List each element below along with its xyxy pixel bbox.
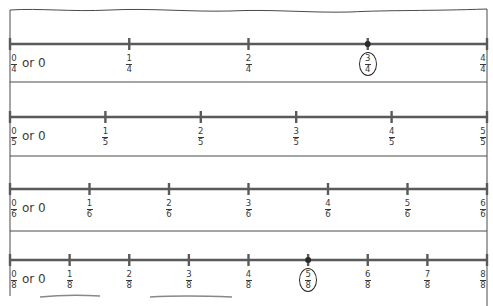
tick-label-0-4: 04: [11, 54, 17, 74]
denominator: 4: [11, 65, 16, 74]
tick-label-5-5: 55: [480, 127, 486, 147]
denominator: 5: [11, 138, 16, 147]
denominator: 8: [11, 281, 16, 290]
zero-equivalent-label: or 0: [22, 201, 46, 215]
zero-equivalent-label: or 0: [22, 129, 46, 143]
numerator: 0: [11, 127, 16, 136]
zero-equivalent-label: or 0: [22, 56, 46, 70]
denominator: 6: [246, 210, 251, 219]
numerator: 0: [11, 199, 16, 208]
tick-label-5-6: 56: [405, 199, 411, 219]
numerator: 2: [127, 270, 132, 279]
denominator: 8: [67, 281, 72, 290]
bottom-smudge-right: [150, 296, 232, 297]
denominator: 6: [166, 210, 171, 219]
bottom-smudge-left: [40, 295, 100, 297]
torn-top-edge: [10, 9, 487, 12]
numerator: 3: [293, 127, 298, 136]
denominator: 6: [405, 210, 410, 219]
number-lines-artwork: [0, 0, 493, 306]
tick-label-1-8: 18: [67, 270, 73, 290]
numerator: 0: [11, 54, 16, 63]
denominator: 6: [87, 210, 92, 219]
tick-label-7-8: 78: [424, 270, 430, 290]
tick-label-4-5: 45: [389, 127, 395, 147]
numerator: 4: [325, 199, 330, 208]
denominator: 8: [186, 281, 191, 290]
denominator: 8: [480, 281, 485, 290]
tick-label-4-8: 48: [246, 270, 252, 290]
fraction-number-lines-worksheet: 04or 01424344405or 0152535455506or 01626…: [0, 0, 493, 306]
numerator: 4: [389, 127, 394, 136]
denominator: 6: [480, 210, 485, 219]
tick-label-2-5: 25: [198, 127, 204, 147]
denominator: 8: [365, 281, 370, 290]
denominator: 5: [103, 138, 108, 147]
numerator: 0: [11, 270, 16, 279]
numerator: 5: [405, 199, 410, 208]
numerator: 3: [186, 270, 191, 279]
tick-label-1-5: 15: [102, 127, 108, 147]
numerator: 1: [87, 199, 92, 208]
numerator: 6: [480, 199, 485, 208]
tick-label-0-8: 08: [11, 270, 17, 290]
denominator: 5: [198, 138, 203, 147]
denominator: 4: [127, 65, 132, 74]
highlight-circle: [299, 268, 317, 292]
tick-label-6-8: 68: [365, 270, 371, 290]
denominator: 5: [293, 138, 298, 147]
numerator: 1: [103, 127, 108, 136]
numerator: 6: [365, 270, 370, 279]
numerator: 2: [166, 199, 171, 208]
numerator: 1: [67, 270, 72, 279]
denominator: 6: [325, 210, 330, 219]
tick-label-2-6: 26: [166, 199, 172, 219]
highlighted-point-dot: [365, 41, 371, 47]
tick-label-1-6: 16: [87, 199, 93, 219]
tick-label-6-6: 66: [480, 199, 486, 219]
tick-label-1-4: 14: [126, 54, 132, 74]
tick-label-2-4: 24: [246, 54, 252, 74]
tick-label-4-4: 44: [480, 54, 486, 74]
denominator: 5: [389, 138, 394, 147]
denominator: 4: [246, 65, 251, 74]
numerator: 2: [246, 54, 251, 63]
denominator: 5: [480, 138, 485, 147]
denominator: 8: [246, 281, 251, 290]
tick-label-3-6: 36: [246, 199, 252, 219]
denominator: 4: [480, 65, 485, 74]
numerator: 1: [127, 54, 132, 63]
tick-label-3-8: 38: [186, 270, 192, 290]
numerator: 8: [480, 270, 485, 279]
tick-label-0-6: 06: [11, 199, 17, 219]
highlight-circle: [359, 52, 377, 76]
denominator: 6: [11, 210, 16, 219]
numerator: 2: [198, 127, 203, 136]
tick-label-4-6: 46: [325, 199, 331, 219]
denominator: 8: [425, 281, 430, 290]
tick-label-3-5: 35: [293, 127, 299, 147]
zero-equivalent-label: or 0: [22, 272, 46, 286]
numerator: 3: [246, 199, 251, 208]
highlighted-point-dot: [305, 257, 311, 263]
denominator: 8: [127, 281, 132, 290]
numerator: 4: [246, 270, 251, 279]
numerator: 7: [425, 270, 430, 279]
tick-label-8-8: 88: [480, 270, 486, 290]
numerator: 5: [480, 127, 485, 136]
tick-label-2-8: 28: [126, 270, 132, 290]
numerator: 4: [480, 54, 485, 63]
tick-label-0-5: 05: [11, 127, 17, 147]
